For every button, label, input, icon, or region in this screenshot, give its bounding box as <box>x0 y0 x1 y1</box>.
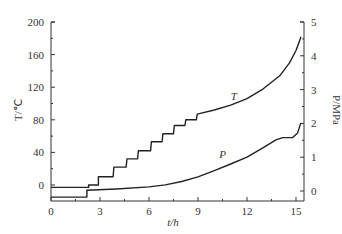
x-tick-label: 15 <box>291 205 303 217</box>
x-tick-label: 9 <box>195 205 201 217</box>
left-tick-label: 0 <box>39 179 45 191</box>
series-lines: TP <box>51 37 301 197</box>
left-tick-label: 80 <box>33 114 45 126</box>
x-axis-title: t/h <box>167 216 179 228</box>
series-line-t <box>51 37 301 188</box>
left-tick-label: 200 <box>28 16 45 28</box>
right-tick-label: 3 <box>311 84 317 96</box>
right-tick-label: 2 <box>311 117 317 129</box>
series-label-p: P <box>218 148 226 160</box>
x-tick-label: 6 <box>146 205 152 217</box>
right-tick-label: 0 <box>311 185 317 197</box>
x-tick-label: 0 <box>48 205 54 217</box>
right-tick-label: 5 <box>311 16 317 28</box>
chart: 0369121504080120160200012345 TP t/h T/℃ … <box>0 0 342 234</box>
axes <box>51 22 304 201</box>
right-tick-label: 4 <box>311 50 317 62</box>
right-axis-title: P/MPa <box>331 95 342 125</box>
left-tick-label: 120 <box>28 81 45 93</box>
right-tick-label: 1 <box>311 151 317 163</box>
series-label-t: T <box>231 90 238 102</box>
left-axis-title: T/℃ <box>12 99 24 121</box>
left-tick-label: 40 <box>33 146 45 158</box>
x-tick-label: 3 <box>97 205 103 217</box>
x-tick-label: 12 <box>242 205 253 217</box>
left-tick-label: 160 <box>28 49 45 61</box>
